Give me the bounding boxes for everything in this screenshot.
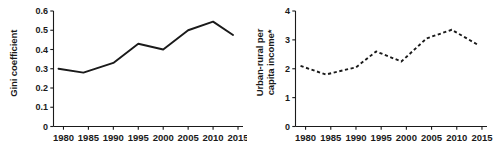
x-tick-label: 1980: [295, 132, 316, 143]
figure-container: Gini coefficient 00.10.20.30.40.50.6 198…: [0, 0, 494, 153]
y-tick-label: 0.2: [35, 83, 48, 93]
x-tick-label: 1990: [345, 132, 366, 143]
gini-x-ticks: 19801985199019952000200520102015: [53, 127, 247, 144]
y-tick-label: 0.1: [35, 102, 48, 112]
y-tick-label: 2: [285, 64, 290, 74]
y-tick-label: 4: [285, 6, 290, 16]
x-tick-label: 2005: [421, 132, 443, 143]
x-tick-label: 2010: [446, 132, 467, 143]
chart-panel-urban-rural: Urban-rural per capita income* 01234 198…: [247, 0, 494, 153]
x-tick-label: 2000: [153, 132, 174, 143]
gini-data-line: [58, 22, 233, 73]
gini-plot: 00.10.20.30.40.50.6 19801985199019952000…: [0, 0, 247, 153]
gini-y-ticks: 00.10.20.30.40.50.6: [35, 6, 53, 132]
chart-panel-gini: Gini coefficient 00.10.20.30.40.50.6 198…: [0, 0, 247, 153]
x-tick-label: 2015: [227, 132, 247, 143]
y-tick-label: 0: [43, 122, 48, 132]
x-tick-label: 1985: [78, 132, 100, 143]
y-tick-label: 3: [285, 35, 290, 45]
x-tick-label: 1985: [320, 132, 342, 143]
x-tick-label: 2010: [203, 132, 224, 143]
y-tick-label: 0.4: [35, 45, 48, 55]
urban-rural-data-line: [301, 30, 477, 75]
y-tick-label: 0: [285, 122, 290, 132]
x-tick-label: 1995: [128, 132, 150, 143]
urban-rural-axes: [296, 11, 488, 127]
x-tick-label: 1980: [53, 132, 74, 143]
x-tick-label: 1995: [371, 132, 393, 143]
x-tick-label: 2000: [396, 132, 417, 143]
y-tick-label: 0.3: [35, 64, 48, 74]
urban-rural-x-ticks: 19801985199019952000200520102015: [295, 127, 493, 144]
urban-rural-plot: 01234 19801985199019952000200520102015: [247, 0, 494, 153]
x-tick-label: 1990: [103, 132, 124, 143]
y-tick-label: 0.5: [35, 25, 48, 35]
gini-axes: [54, 11, 244, 127]
x-tick-label: 2005: [178, 132, 200, 143]
urban-rural-y-ticks: 01234: [285, 6, 296, 132]
x-tick-label: 2015: [471, 132, 493, 143]
y-tick-label: 0.6: [35, 6, 48, 16]
y-tick-label: 1: [285, 93, 290, 103]
